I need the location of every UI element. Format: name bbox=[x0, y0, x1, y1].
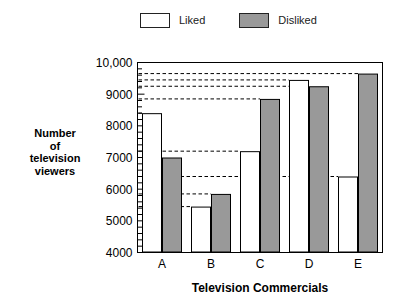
y-tick-label: 10,000 bbox=[96, 56, 133, 70]
x-tick-label: E bbox=[354, 257, 362, 271]
y-tick-label: 4000 bbox=[106, 246, 133, 260]
x-tick-label: A bbox=[158, 257, 166, 271]
y-tick-label: 5000 bbox=[106, 214, 133, 228]
bar-b-liked bbox=[192, 207, 211, 252]
y-tick-label: 7000 bbox=[106, 151, 133, 165]
y-tick-label: 9000 bbox=[106, 88, 133, 102]
bar-group bbox=[143, 74, 378, 252]
bar-e-disliked bbox=[359, 74, 378, 252]
y-tick-label-group: 40005000600070008000900010,000 bbox=[96, 56, 133, 260]
bar-b-disliked bbox=[212, 194, 231, 252]
y-tick-label: 8000 bbox=[106, 119, 133, 133]
x-tick-label-group: ABCDE bbox=[158, 257, 362, 271]
bar-a-liked bbox=[143, 114, 162, 252]
bar-c-liked bbox=[241, 152, 260, 252]
y-tick-label: 6000 bbox=[106, 183, 133, 197]
x-tick-label: C bbox=[256, 257, 265, 271]
x-tick-label: D bbox=[305, 257, 314, 271]
bar-d-disliked bbox=[310, 87, 329, 252]
bar-c-disliked bbox=[261, 99, 280, 252]
bar-a-disliked bbox=[163, 158, 182, 252]
plot-area: 40005000600070008000900010,000 ABCDE bbox=[0, 0, 406, 303]
bar-d-liked bbox=[290, 80, 309, 252]
x-tick-label: B bbox=[207, 257, 215, 271]
bar-e-liked bbox=[339, 177, 358, 252]
bar-chart-figure: Liked Disliked Number of television view… bbox=[0, 0, 406, 303]
x-axis-title: Television Commercials bbox=[137, 281, 383, 295]
